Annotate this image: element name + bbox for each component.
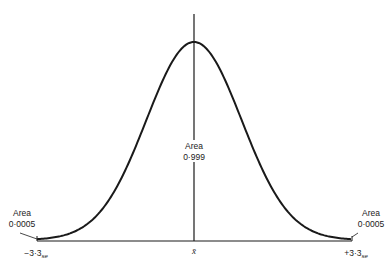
left-area-title: Area	[13, 208, 31, 218]
left-leader-line	[20, 233, 37, 239]
mean-tick-label: x̄	[191, 246, 197, 256]
center-area-title: Area	[185, 141, 203, 151]
left-area-value: 0·0005	[9, 219, 36, 229]
normal-curve-diagram: Area 0·999 Area 0·0005 Area 0·0005 −3·3s…	[0, 0, 389, 269]
right-tick-label: +3·3se	[344, 248, 368, 259]
right-leader-line	[352, 233, 358, 237]
right-area-title: Area	[362, 208, 380, 218]
left-tick-label: −3·3se	[24, 248, 48, 259]
right-area-value: 0·0005	[358, 219, 385, 229]
center-area-value: 0·999	[183, 152, 205, 162]
